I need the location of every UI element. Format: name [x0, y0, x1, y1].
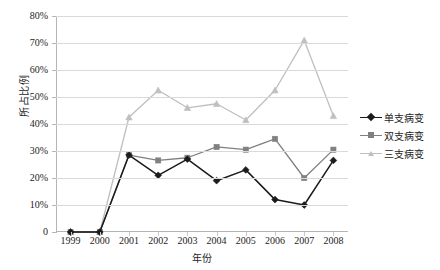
- y-tick-label: 50%: [14, 92, 48, 102]
- legend-marker-icon: [360, 148, 382, 158]
- y-tick-mark: [52, 232, 56, 233]
- y-tick-mark: [52, 97, 56, 98]
- legend-item-2[interactable]: 三支病变: [360, 144, 440, 162]
- y-tick-label: 80%: [14, 11, 48, 21]
- y-tick-label: 60%: [14, 65, 48, 75]
- legend-item-1[interactable]: 双支病变: [360, 126, 440, 144]
- y-tick-mark: [52, 16, 56, 17]
- data-point: [156, 158, 161, 163]
- y-tick-label: 0: [14, 227, 48, 237]
- gridline: [56, 70, 348, 71]
- legend-label: 三支病变: [384, 146, 424, 161]
- y-tick-mark: [52, 205, 56, 206]
- data-point: [214, 144, 219, 149]
- data-point: [272, 136, 277, 141]
- y-tick-label: 40%: [14, 119, 48, 129]
- y-tick-mark: [52, 178, 56, 179]
- data-point: [155, 87, 161, 93]
- chart-container: 所占比例 010%20%30%40%50%60%70%80% 199920002…: [0, 0, 440, 270]
- legend-label: 单支病变: [384, 110, 424, 125]
- gridline: [56, 16, 348, 17]
- series-line: [71, 139, 334, 232]
- gridline: [56, 124, 348, 125]
- series-0: [67, 152, 337, 236]
- y-tick-label: 20%: [14, 173, 48, 183]
- chart-legend: 单支病变双支病变三支病变: [360, 108, 440, 162]
- gridline: [56, 178, 348, 179]
- data-point: [330, 113, 336, 119]
- legend-label: 双支病变: [384, 128, 424, 143]
- y-tick-mark: [52, 70, 56, 71]
- plot-area: [56, 16, 348, 232]
- legend-marker-icon: [360, 130, 382, 140]
- y-tick-mark: [52, 124, 56, 125]
- y-tick-mark: [52, 151, 56, 152]
- y-tick-label: 30%: [14, 146, 48, 156]
- data-point: [272, 87, 278, 93]
- y-tick-label: 10%: [14, 200, 48, 210]
- x-axis-title: 年份: [56, 250, 348, 265]
- y-tick-mark: [52, 43, 56, 44]
- y-tick-label: 70%: [14, 38, 48, 48]
- gridline: [56, 97, 348, 98]
- legend-marker-icon: [360, 112, 382, 122]
- gridline: [56, 43, 348, 44]
- y-axis-tick-labels: 010%20%30%40%50%60%70%80%: [12, 0, 48, 270]
- gridline: [56, 151, 348, 152]
- gridline: [56, 205, 348, 206]
- x-tick-label: 2008: [313, 236, 353, 246]
- legend-item-0[interactable]: 单支病变: [360, 108, 440, 126]
